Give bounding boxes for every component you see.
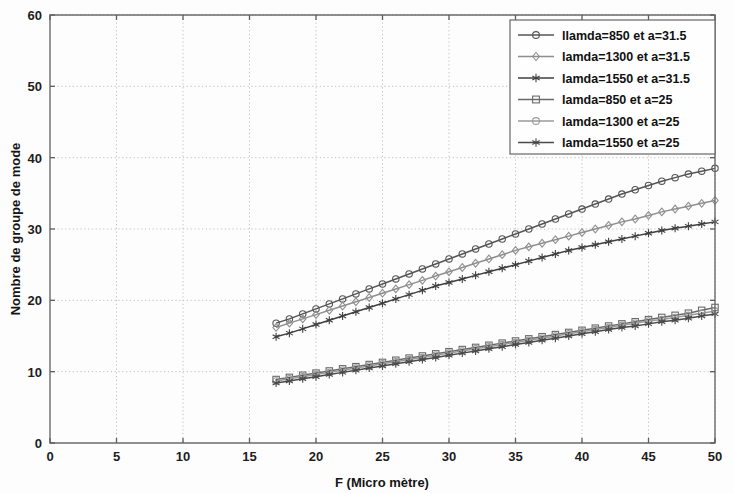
x-tick-label: 15 xyxy=(242,449,256,464)
x-tick-label: 30 xyxy=(442,449,456,464)
x-tick-label: 25 xyxy=(375,449,389,464)
data-series xyxy=(273,165,718,326)
legend-label: lamda=1300 et a=31.5 xyxy=(562,50,690,64)
line-chart: 051015202530354045500102030405060 llamda… xyxy=(0,0,734,493)
legend-label: lamda=1300 et a=25 xyxy=(562,115,679,129)
y-tick-label: 50 xyxy=(28,79,42,94)
y-tick-label: 30 xyxy=(28,222,42,237)
x-tick-label: 50 xyxy=(708,449,722,464)
y-tick-label: 60 xyxy=(28,8,42,23)
chart-legend[interactable]: llamda=850 et a=31.5lamda=1300 et a=31.5… xyxy=(510,20,715,154)
legend-label: llamda=850 et a=31.5 xyxy=(562,29,686,43)
x-tick-label: 35 xyxy=(508,449,522,464)
data-series-layer xyxy=(273,165,719,387)
y-tick-label: 0 xyxy=(35,436,42,451)
x-tick-label: 40 xyxy=(575,449,589,464)
x-tick-label: 10 xyxy=(176,449,190,464)
y-tick-label: 10 xyxy=(28,365,42,380)
data-series xyxy=(273,197,718,332)
legend-label: lamda=1550 et a=25 xyxy=(562,136,679,150)
x-tick-label: 45 xyxy=(641,449,655,464)
y-axis-title: Nombre de groupe de mode xyxy=(8,143,23,316)
x-tick-label: 20 xyxy=(309,449,323,464)
x-tick-label: 0 xyxy=(46,449,53,464)
data-series xyxy=(273,310,719,387)
x-tick-label: 5 xyxy=(113,449,120,464)
y-tick-label: 20 xyxy=(28,293,42,308)
legend-label: lamda=850 et a=25 xyxy=(562,93,673,107)
y-tick-label: 40 xyxy=(28,151,42,166)
series-line xyxy=(276,311,715,381)
chart-figure: 051015202530354045500102030405060 llamda… xyxy=(0,0,734,493)
legend-label: lamda=1550 et a=31.5 xyxy=(562,72,690,86)
x-axis-title: F (Micro mètre) xyxy=(335,475,429,490)
